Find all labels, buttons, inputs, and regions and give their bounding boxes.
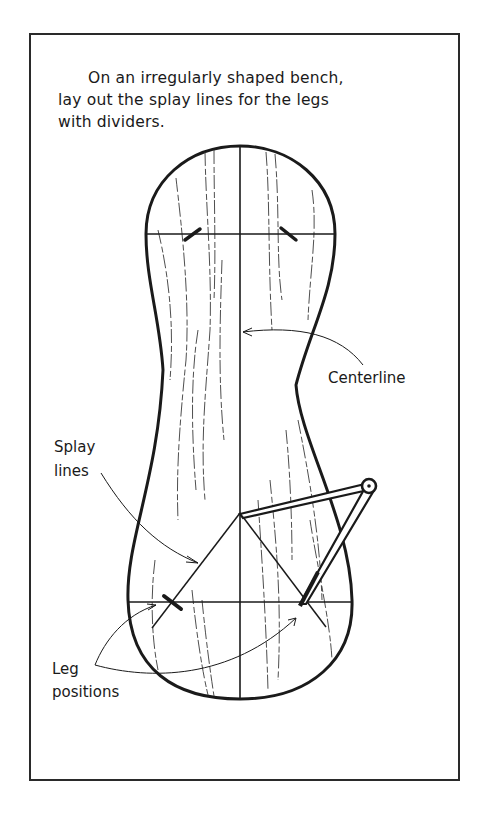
leg-positions-label-1: Leg xyxy=(52,660,79,679)
splay-lines-label-1: Splay xyxy=(54,438,95,457)
caption-line-3: with dividers. xyxy=(58,112,165,132)
leg-positions-label-2: positions xyxy=(52,683,119,702)
right-splay-line xyxy=(240,513,326,627)
splay-lines-leader xyxy=(101,473,198,563)
left-splay-line xyxy=(152,513,240,628)
caption-line-2: lay out the splay lines for the legs xyxy=(58,90,329,110)
caption-line-1: On an irregularly shaped bench, xyxy=(88,68,344,88)
centerline-label: Centerline xyxy=(328,369,406,388)
leg-positions-leader xyxy=(95,605,156,665)
splay-lines-label-2: lines xyxy=(54,462,89,481)
